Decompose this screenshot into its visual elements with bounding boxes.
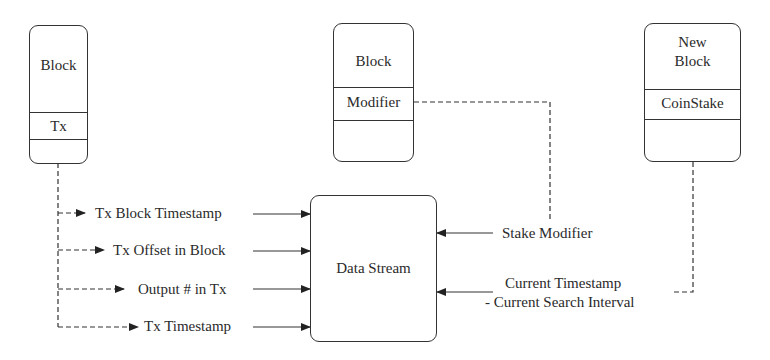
- input-label-output-number: Output # in Tx: [138, 280, 226, 298]
- data-stream-box: Data Stream: [310, 195, 437, 342]
- block-middle-divider-top: [334, 87, 413, 88]
- block-new-divider-top: [645, 89, 740, 90]
- input-label-tx-timestamp: Tx Timestamp: [144, 317, 231, 335]
- block-new: New Block CoinStake: [644, 23, 741, 162]
- input-label-current-timestamp: Current Timestamp: [505, 274, 621, 292]
- diagram-canvas: Block Tx Block Modifier New Block CoinSt…: [0, 0, 770, 360]
- block-new-title-line2: Block: [645, 52, 740, 70]
- block-left-field: Tx: [30, 117, 87, 135]
- data-stream-label: Data Stream: [311, 259, 436, 277]
- input-label-tx-offset: Tx Offset in Block: [113, 241, 226, 259]
- block-left: Block Tx: [29, 25, 88, 164]
- block-new-field: CoinStake: [645, 94, 740, 112]
- input-label-stake-modifier: Stake Modifier: [502, 224, 592, 242]
- block-middle-title: Block: [334, 52, 413, 70]
- block-left-divider-bottom: [30, 139, 87, 140]
- block-left-title: Block: [30, 56, 87, 74]
- input-label-tx-block-timestamp: Tx Block Timestamp: [95, 204, 222, 222]
- block-middle-field: Modifier: [334, 93, 413, 111]
- block-left-divider-top: [30, 112, 87, 113]
- block-middle: Block Modifier: [333, 23, 414, 162]
- input-label-search-interval: - Current Search Interval: [485, 293, 635, 311]
- block-middle-divider-bottom: [334, 120, 413, 121]
- block-new-title-line1: New: [645, 33, 740, 51]
- block-new-divider-bottom: [645, 119, 740, 120]
